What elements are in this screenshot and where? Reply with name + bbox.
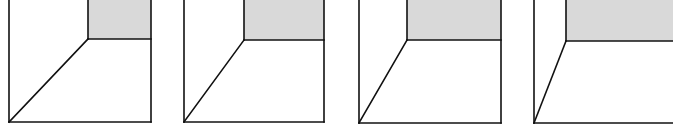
panel-2 (184, 0, 324, 122)
panel-4 (534, 0, 673, 123)
floor-diagonal (359, 40, 407, 123)
panel-1 (9, 0, 151, 122)
perspective-room-diagram (0, 0, 673, 130)
back-wall (88, 0, 151, 39)
floor-diagonal (184, 40, 244, 122)
back-wall (566, 0, 673, 41)
back-wall (407, 0, 501, 40)
floor-diagonal (534, 41, 566, 123)
floor-diagonal (9, 39, 88, 122)
panel-3 (359, 0, 501, 123)
back-wall (244, 0, 324, 40)
